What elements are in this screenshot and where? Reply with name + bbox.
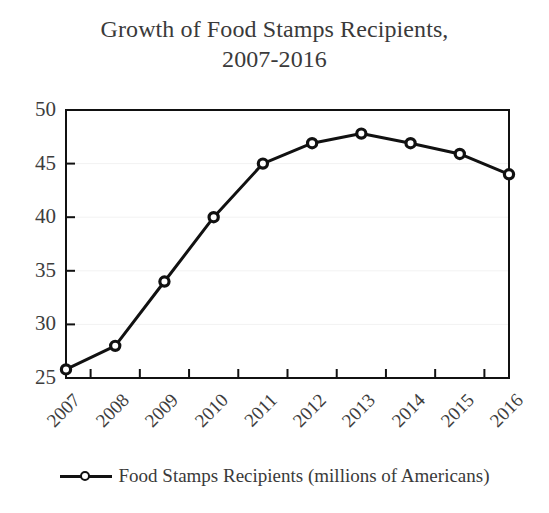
legend-label-food-stamps-recipients: Food Stamps Recipients (millions of Amer… [119, 466, 490, 486]
data-point-marker [357, 129, 366, 138]
data-point-marker [160, 277, 169, 286]
legend-circle-icon [80, 471, 90, 481]
y-axis-label: 45 [12, 153, 56, 174]
plot-area: 253035404550 200720082009201020112012201… [0, 0, 549, 513]
plot-canvas [0, 0, 549, 513]
gridlines [67, 110, 508, 324]
chart-legend: Food Stamps Recipients (millions of Amer… [0, 466, 549, 486]
data-point-marker [455, 149, 464, 158]
data-point-marker [209, 213, 218, 222]
y-axis-label: 50 [12, 99, 56, 120]
y-axis-label: 40 [12, 206, 56, 227]
y-axis-ticks [66, 164, 75, 325]
data-point-marker [308, 139, 317, 148]
data-point-marker [258, 159, 267, 168]
legend-marker-icon [60, 469, 112, 483]
x-axis-ticks [91, 369, 485, 378]
data-point-marker [61, 365, 70, 374]
y-axis-label: 35 [12, 260, 56, 281]
data-point-marker [504, 170, 513, 179]
series-markers [61, 129, 513, 374]
y-axis-label: 25 [12, 367, 56, 388]
series-line-food-stamps-recipients [66, 134, 509, 370]
data-point-marker [406, 139, 415, 148]
data-point-marker [111, 341, 120, 350]
y-axis-label: 30 [12, 313, 56, 334]
chart-figure: Growth of Food Stamps Recipients, 2007-2… [0, 0, 549, 513]
